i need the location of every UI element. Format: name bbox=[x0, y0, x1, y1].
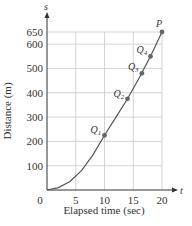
y-tick-label: 400 bbox=[27, 87, 44, 99]
data-points: Q1Q2Q3Q4P bbox=[91, 18, 165, 138]
y-axis-symbol: s bbox=[44, 1, 48, 12]
x-tick-label: 0 bbox=[37, 194, 43, 206]
y-tick-label: 100 bbox=[27, 160, 44, 172]
x-tick-label: 20 bbox=[157, 194, 169, 206]
y-tick-labels: 100200300400500600650 bbox=[27, 26, 44, 172]
point-marker bbox=[160, 30, 165, 35]
x-axis-symbol: t bbox=[180, 185, 183, 196]
point-marker bbox=[139, 71, 144, 76]
y-tick-label: 300 bbox=[27, 111, 44, 123]
point-label: Q4 bbox=[137, 44, 148, 57]
point-marker bbox=[148, 54, 153, 59]
x-axis-arrow-icon bbox=[172, 188, 178, 193]
point-label: P bbox=[155, 18, 162, 29]
point-label: Q1 bbox=[91, 124, 102, 137]
point-label: Q2 bbox=[114, 88, 125, 101]
y-axis-label: Distance (m) bbox=[1, 82, 14, 139]
y-tick-label: 600 bbox=[27, 38, 44, 50]
distance-time-chart: 100200300400500600650 05101520 Q1Q2Q3Q4P… bbox=[0, 0, 192, 226]
y-axis-arrow-icon bbox=[45, 12, 50, 18]
y-tick-label: 200 bbox=[27, 135, 44, 147]
y-tick-label: 500 bbox=[27, 62, 44, 74]
x-axis-label: Elapsed time (sec) bbox=[63, 204, 145, 217]
y-tick-label: 650 bbox=[27, 26, 44, 38]
point-marker bbox=[102, 133, 107, 138]
point-marker bbox=[125, 96, 130, 101]
